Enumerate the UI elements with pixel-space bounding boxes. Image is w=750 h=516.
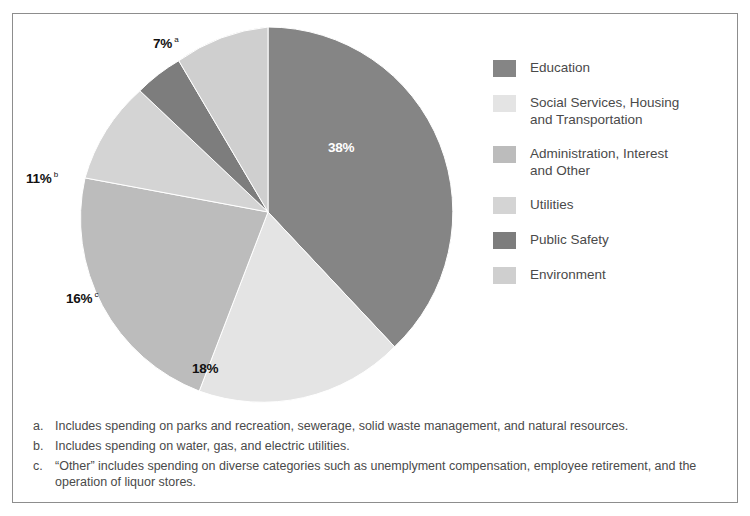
pie-label-administration: 16%c	[66, 290, 98, 306]
pie-chart: 38% 18% 16%c 11%b 9% 7%a	[73, 22, 463, 407]
legend-label-education: Education	[530, 59, 590, 76]
pie-label-public-safety: 9%	[79, 75, 98, 90]
footnote-b-text: Includes spending on water, gas, and ele…	[55, 438, 350, 454]
legend-item-environment[interactable]: Environment	[493, 266, 723, 284]
footnote-b-marker: b.	[33, 438, 55, 454]
pie-svg	[73, 22, 463, 407]
footnotes: a. Includes spending on parks and recrea…	[33, 418, 723, 494]
chart-area: 38% 18% 16%c 11%b 9% 7%a Education	[13, 14, 739, 409]
footnote-a-text: Includes spending on parks and recreatio…	[55, 418, 628, 434]
legend-item-public-safety[interactable]: Public Safety	[493, 231, 723, 249]
legend-item-education[interactable]: Education	[493, 59, 723, 77]
legend: Education Social Services, Housing and T…	[493, 59, 723, 301]
figure-frame: 38% 18% 16%c 11%b 9% 7%a Education	[12, 13, 738, 503]
footnote-c-marker: c.	[33, 458, 55, 474]
pie-label-utilities: 11%b	[26, 170, 58, 186]
footnote-b: b. Includes spending on water, gas, and …	[33, 438, 723, 454]
legend-label-administration: Administration, Interest and Other	[530, 145, 668, 179]
pie-label-social-services: 18%	[192, 361, 218, 376]
footnote-ref-a: a	[174, 35, 178, 44]
footnote-c-text: “Other” includes spending on diverse cat…	[55, 458, 723, 490]
legend-label-utilities: Utilities	[530, 196, 574, 213]
footnote-a-marker: a.	[33, 418, 55, 434]
footnote-ref-b: b	[54, 170, 58, 179]
legend-swatch-social-services	[493, 95, 516, 112]
legend-swatch-public-safety	[493, 232, 516, 249]
pie-label-environment: 7%a	[153, 35, 178, 51]
legend-swatch-administration	[493, 146, 516, 163]
footnote-ref-c: c	[94, 290, 98, 299]
footnote-c: c. “Other” includes spending on diverse …	[33, 458, 723, 490]
legend-swatch-utilities	[493, 197, 516, 214]
legend-label-environment: Environment	[530, 266, 606, 283]
legend-item-utilities[interactable]: Utilities	[493, 196, 723, 214]
pie-label-education: 38%	[328, 140, 354, 155]
legend-swatch-education	[493, 60, 516, 77]
legend-label-social-services: Social Services, Housing and Transportat…	[530, 94, 679, 128]
legend-item-administration[interactable]: Administration, Interest and Other	[493, 145, 723, 179]
legend-swatch-environment	[493, 267, 516, 284]
legend-item-social-services[interactable]: Social Services, Housing and Transportat…	[493, 94, 723, 128]
legend-label-public-safety: Public Safety	[530, 231, 609, 248]
footnote-a: a. Includes spending on parks and recrea…	[33, 418, 723, 434]
